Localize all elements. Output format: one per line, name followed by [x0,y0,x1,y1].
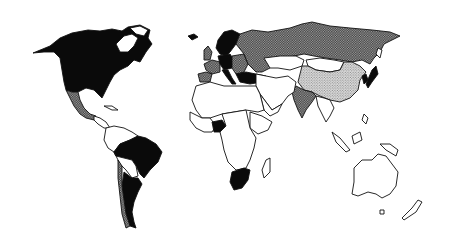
region-sumatra [332,132,350,152]
region-central-america [94,116,110,128]
region-south-africa [230,168,250,190]
region-uk [204,46,212,60]
region-borneo [352,132,362,144]
region-iberia [198,72,212,82]
world-map [0,0,452,243]
north-america [33,25,152,128]
region-caribbean [104,106,118,110]
asia [236,22,400,156]
region-kazakh-steppe [264,56,304,70]
region-philippines [362,114,368,124]
region-new-guinea [380,144,398,156]
south-america [104,126,162,228]
region-mexico [66,90,96,120]
region-new-zealand [402,200,422,220]
region-tasmania [380,210,384,214]
region-japan [366,66,378,88]
region-madagascar [262,158,270,178]
africa [190,82,272,190]
region-iceland [188,34,198,40]
oceania [352,154,422,220]
region-australia [352,154,398,198]
region-italy [222,70,236,84]
